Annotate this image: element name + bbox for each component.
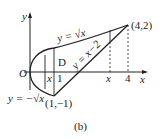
lower-curve-label: y = −√x	[7, 92, 44, 104]
point-4-2-label: (4,2)	[131, 19, 152, 32]
region-diagram: y x O y = √x y = −√x y = x−2 (4,2) (1,−1…	[0, 0, 167, 139]
tick-x-left: x	[46, 72, 52, 84]
y-axis-arrow-icon	[28, 12, 32, 18]
tick-four: 4	[125, 72, 131, 84]
region-label: D	[58, 56, 66, 68]
y-axis-label: y	[21, 10, 27, 22]
caption: (b)	[74, 120, 87, 133]
upper-curve-label: y = √x	[55, 26, 87, 44]
tick-one: 1	[57, 72, 63, 84]
x-axis-label: x	[139, 73, 145, 85]
tick-x-right: x	[105, 72, 111, 84]
origin-label: O	[19, 67, 27, 79]
point-1-neg1-label: (1,−1)	[45, 97, 73, 110]
